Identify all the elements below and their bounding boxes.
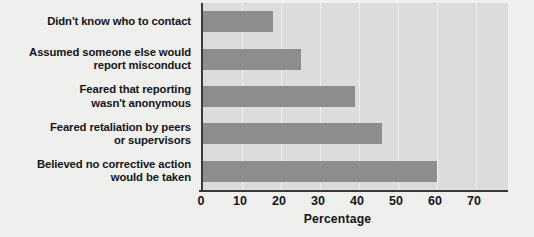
x-tick-label: 70 — [454, 194, 494, 208]
x-axis-title: Percentage — [201, 212, 474, 226]
x-axis-line — [199, 190, 508, 192]
bar — [203, 86, 355, 107]
x-tick-label: 60 — [415, 194, 455, 208]
category-label: Feared retaliation by peers or superviso… — [1, 121, 191, 147]
x-tick-label: 20 — [259, 194, 299, 208]
x-tick-label: 0 — [181, 194, 221, 208]
category-label: Didn't know who to contact — [1, 15, 191, 28]
bar — [203, 123, 382, 144]
category-axis-labels: Didn't know who to contactAssumed someon… — [0, 0, 197, 190]
category-label: Believed no corrective action would be t… — [1, 158, 191, 184]
gridline — [437, 3, 438, 190]
bar — [203, 161, 437, 182]
bar — [203, 49, 301, 70]
category-label: Assumed someone else would report miscon… — [1, 46, 191, 72]
gridline — [476, 3, 477, 190]
bar — [203, 11, 273, 32]
x-tick-label: 10 — [220, 194, 260, 208]
x-tick-label: 40 — [337, 194, 377, 208]
x-tick-label: 50 — [376, 194, 416, 208]
category-label: Feared that reporting wasn't anonymous — [1, 83, 191, 109]
bar-chart: Didn't know who to contactAssumed someon… — [0, 0, 534, 237]
x-tick-label: 30 — [298, 194, 338, 208]
plot-area — [201, 3, 508, 190]
